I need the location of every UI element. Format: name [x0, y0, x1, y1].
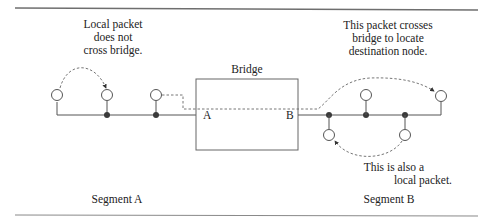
node-b2 [361, 90, 372, 101]
bridge: Bridge A B [196, 63, 298, 150]
annotation-local-a-1: Local packet [83, 18, 143, 31]
segment-a: Local packet does not cross bridge. Segm… [52, 18, 197, 206]
tap-a2 [104, 112, 110, 118]
segment-a-label: Segment A [92, 193, 143, 206]
bridge-diagram: Local packet does not cross bridge. Segm… [0, 0, 479, 220]
local-packet-a-arrow [60, 68, 106, 88]
node-a3 [151, 90, 162, 101]
annotation-crossing-3: destination node. [349, 45, 428, 57]
top-rule [15, 8, 478, 10]
node-a2 [102, 90, 113, 101]
local-packet-b-arrow [335, 141, 402, 156]
bridge-label: Bridge [231, 63, 262, 76]
node-b4 [436, 91, 447, 102]
segment-b: This packet crosses bridge to locate des… [298, 19, 452, 206]
node-b1 [324, 130, 335, 141]
node-a1 [52, 90, 63, 101]
annotation-local-a-3: cross bridge. [84, 44, 143, 57]
annotation-crossing-2: bridge to locate [352, 32, 424, 45]
annotation-local-a-2: does not [94, 31, 133, 43]
port-a-label: A [203, 109, 212, 121]
node-b3 [400, 130, 411, 141]
segment-b-label: Segment B [364, 193, 415, 206]
annotation-local-b-2: local packet. [394, 174, 452, 187]
port-b-label: B [286, 109, 294, 121]
tap-a3 [153, 112, 159, 118]
annotation-crossing-1: This packet crosses [343, 19, 433, 32]
bottom-rule [15, 215, 478, 216]
annotation-local-b-1: This is also a [364, 161, 424, 173]
